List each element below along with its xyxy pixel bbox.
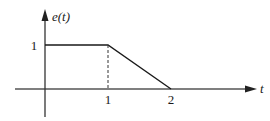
y-axis-arrow-icon xyxy=(42,9,49,21)
y-tick-label-1: 1 xyxy=(31,38,38,53)
signal-diagram: e(t) 1 1 2 t xyxy=(0,0,270,121)
x-axis-label: t xyxy=(260,81,264,96)
y-axis-label: e(t) xyxy=(52,9,70,24)
x-tick-label-2: 2 xyxy=(168,92,175,107)
x-tick-label-1: 1 xyxy=(105,92,112,107)
x-axis-arrow-icon xyxy=(245,86,257,93)
